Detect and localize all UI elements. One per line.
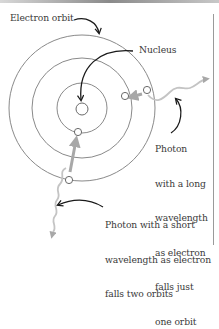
- electron-outer-right: [143, 86, 150, 93]
- electron-inner-bottom: [74, 128, 81, 135]
- transition-arrow-outer-to-middle: [131, 94, 142, 97]
- long-wavelength-photon-icon: [148, 79, 207, 100]
- electron-orbit-label: Electron orbit: [10, 12, 74, 24]
- short-wavelength-photon-icon: [52, 168, 66, 236]
- transition-arrow-outer-to-inner: [70, 140, 76, 172]
- electron-outer-bottom: [65, 176, 72, 183]
- nucleus-icon: [76, 103, 88, 115]
- short-photon-pointer-arrow: [58, 200, 103, 207]
- short-wavelength-photon-label: Photon with a short wavelength as electr…: [105, 196, 211, 311]
- electron-middle-right: [121, 92, 128, 99]
- nucleus-label: Nucleus: [139, 44, 176, 56]
- electron-orbit-pointer-arrow: [74, 19, 99, 33]
